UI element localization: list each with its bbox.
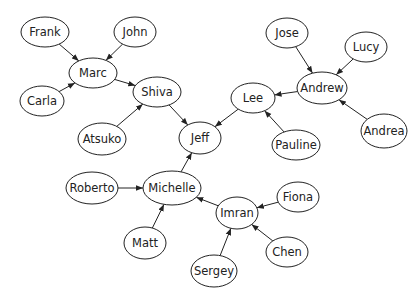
node-label: Jeff [190, 131, 210, 145]
node-label: Michelle [148, 181, 195, 195]
edge-shiva-to-jeff [169, 105, 188, 125]
edge-carla-to-marc [59, 83, 75, 92]
edge-matt-to-michelle [152, 204, 164, 228]
node-label: Sergey [194, 264, 234, 278]
node-label: Pauline [275, 138, 317, 152]
edge-atsuko-to-shiva [117, 104, 143, 126]
arrow-icon [215, 109, 238, 127]
node-chen: Chen [266, 237, 308, 267]
edge-pauline-to-lee [265, 111, 284, 132]
arrow-icon [59, 83, 75, 92]
edge-andrea-to-andrew [339, 100, 367, 120]
node-lucy: Lucy [345, 32, 387, 62]
node-frank: Frank [21, 17, 69, 47]
node-label: Atsuko [83, 132, 122, 146]
directed-graph: FrankJohnMarcCarlaShivaAtsukoJeffJoseLuc… [0, 0, 409, 303]
node-label: John [121, 25, 147, 39]
node-label: Roberto [69, 181, 114, 195]
node-label: Carla [27, 94, 57, 108]
node-label: Lucy [353, 40, 380, 54]
node-roberto: Roberto [66, 172, 118, 204]
arrow-icon [336, 59, 353, 75]
arrow-icon [59, 44, 79, 61]
edge-imran-to-michelle [196, 197, 218, 205]
node-carla: Carla [20, 86, 64, 116]
node-atsuko: Atsuko [78, 123, 126, 155]
edge-chen-to-imran [252, 224, 273, 240]
node-label: Lee [243, 91, 263, 105]
node-label: Marc [79, 66, 107, 80]
arrow-icon [196, 197, 218, 205]
edge-fiona-to-imran [257, 202, 278, 208]
arrow-icon [169, 105, 188, 125]
node-sergey: Sergey [191, 255, 237, 287]
node-shiva: Shiva [133, 77, 181, 107]
node-label: Shiva [141, 85, 173, 99]
edge-andrew-to-lee [275, 92, 298, 95]
edge-lee-to-jeff [215, 109, 238, 127]
node-jose: Jose [266, 18, 308, 48]
node-andrea: Andrea [361, 114, 407, 148]
arrow-icon [339, 100, 367, 120]
node-label: Fiona [283, 190, 313, 204]
arrow-icon [115, 79, 136, 85]
node-pauline: Pauline [272, 130, 320, 160]
nodes-layer: FrankJohnMarcCarlaShivaAtsukoJeffJoseLuc… [20, 17, 407, 287]
node-label: Andrea [363, 124, 404, 138]
node-matt: Matt [124, 227, 166, 259]
edge-marc-to-shiva [115, 79, 136, 85]
node-michelle: Michelle [143, 171, 201, 205]
edge-sergey-to-imran [220, 228, 231, 255]
node-imran: Imran [216, 197, 258, 229]
arrow-icon [257, 202, 278, 208]
arrow-icon [252, 224, 273, 240]
node-label: Imran [220, 206, 254, 220]
node-marc: Marc [69, 58, 117, 88]
node-label: Jose [274, 26, 299, 40]
arrow-icon [265, 111, 284, 132]
edge-michelle-to-jeff [181, 153, 192, 172]
edge-john-to-marc [106, 44, 123, 60]
node-andrew: Andrew [297, 72, 347, 104]
arrow-icon [275, 92, 298, 95]
node-jeff: Jeff [179, 122, 221, 154]
arrow-icon [181, 153, 192, 172]
arrow-icon [220, 228, 231, 255]
arrow-icon [106, 44, 123, 60]
arrow-icon [117, 104, 143, 126]
arrow-icon [296, 47, 313, 74]
node-john: John [114, 17, 156, 47]
node-label: Frank [29, 25, 61, 39]
edge-lucy-to-andrew [336, 59, 353, 75]
edge-frank-to-marc [59, 44, 79, 61]
node-label: Andrew [300, 81, 343, 95]
node-label: Chen [272, 245, 302, 259]
node-lee: Lee [231, 83, 275, 113]
edge-jose-to-andrew [296, 47, 313, 74]
node-fiona: Fiona [277, 182, 319, 212]
node-label: Matt [132, 236, 158, 250]
arrow-icon [152, 204, 164, 228]
